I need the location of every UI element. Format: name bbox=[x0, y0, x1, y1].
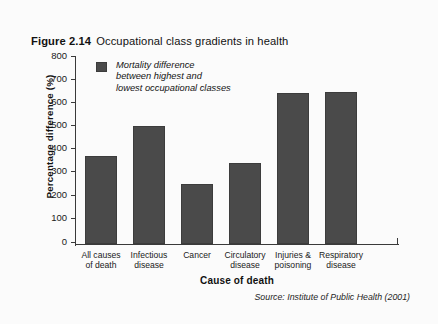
y-tick-mark bbox=[71, 171, 76, 172]
y-tick-mark bbox=[71, 79, 76, 80]
legend-label: Mortality difference between highest and… bbox=[116, 60, 284, 94]
legend-color-swatch bbox=[96, 62, 107, 72]
y-tick-mark bbox=[71, 125, 76, 126]
x-tick-label-circulatory-disease: Circulatory disease bbox=[218, 250, 272, 270]
y-tick-mark bbox=[71, 218, 76, 219]
chart-plot-area: Percentage difference (%) 800 700 600 50… bbox=[33, 57, 405, 254]
bar-cancer bbox=[181, 184, 213, 244]
x-tick-label-line: disease bbox=[314, 260, 368, 270]
chart-legend: Mortality difference between highest and… bbox=[96, 60, 286, 102]
legend-label-line: between highest and bbox=[116, 71, 284, 82]
y-tick-label: 0 bbox=[33, 237, 67, 247]
x-axis-end-tick bbox=[397, 238, 398, 245]
x-tick-label-line: Cancer bbox=[170, 250, 224, 260]
x-axis-title: Cause of death bbox=[75, 275, 399, 286]
x-tick-label-line: Circulatory bbox=[218, 250, 272, 260]
x-tick-label-line: Respiratory bbox=[314, 250, 368, 260]
page-title: Occupational class gradients in health bbox=[96, 35, 288, 47]
figure-number: Figure 2.14 bbox=[31, 35, 91, 47]
y-tick-mark bbox=[71, 148, 76, 149]
legend-label-line: Mortality difference bbox=[116, 60, 284, 71]
y-tick-mark bbox=[71, 195, 76, 196]
x-tick-label-all-causes-of-death: All causes of death bbox=[74, 250, 128, 270]
x-tick-label-line: of death bbox=[74, 260, 128, 270]
x-tick-label-respiratory-disease: Respiratory disease bbox=[314, 250, 368, 270]
x-tick-label-cancer: Cancer bbox=[170, 250, 224, 260]
y-tick-label: 500 bbox=[33, 120, 67, 130]
bar-respiratory-disease bbox=[325, 92, 357, 244]
y-tick-label: 100 bbox=[33, 213, 67, 223]
x-tick-label-line: disease bbox=[218, 260, 272, 270]
y-tick-mark bbox=[71, 242, 76, 243]
bar-all-causes-of-death bbox=[85, 156, 117, 244]
y-tick-label: 800 bbox=[33, 51, 67, 61]
y-tick-mark bbox=[71, 102, 76, 103]
legend-label-line: lowest occupational classes bbox=[116, 83, 284, 94]
x-axis-line bbox=[75, 244, 399, 245]
x-tick-label-line: Infectious bbox=[122, 250, 176, 260]
x-tick-label-infectious-disease: Infectious disease bbox=[122, 250, 176, 270]
figure-caption: Figure 2.14Occupational class gradients … bbox=[31, 33, 411, 49]
bar-infectious-disease bbox=[133, 126, 165, 244]
x-tick-label-line: disease bbox=[122, 260, 176, 270]
y-tick-label: 300 bbox=[33, 166, 67, 176]
y-tick-label: 200 bbox=[33, 190, 67, 200]
x-tick-label-line: poisoning bbox=[266, 260, 320, 270]
y-tick-label: 700 bbox=[33, 74, 67, 84]
y-tick-mark bbox=[71, 56, 76, 57]
y-tick-label: 400 bbox=[33, 143, 67, 153]
x-tick-label-line: All causes bbox=[74, 250, 128, 260]
source-attribution: Source: Institute of Public Health (2001… bbox=[160, 292, 410, 302]
figure-panel: Figure 2.14Occupational class gradients … bbox=[0, 0, 438, 324]
y-tick-label: 600 bbox=[33, 97, 67, 107]
x-tick-label-line: Injuries & bbox=[266, 250, 320, 260]
bar-injuries-and-poisoning bbox=[277, 93, 309, 244]
x-tick-label-injuries-and-poisoning: Injuries & poisoning bbox=[266, 250, 320, 270]
bar-circulatory-disease bbox=[229, 163, 261, 244]
